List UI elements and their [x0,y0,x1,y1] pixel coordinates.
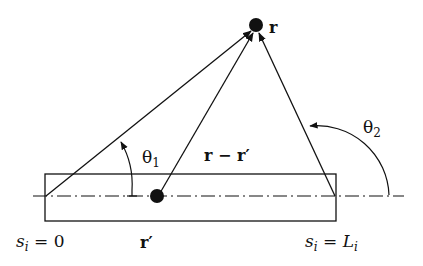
field-point-r [249,18,263,32]
label-r-minus-rprime: r − r′ [204,146,250,165]
label-theta2: θ2 [363,117,381,140]
vector-from-start [46,31,251,196]
vector-r-minus-rprime [160,33,253,193]
segment-field-diagram: r r − r′ r′ θ1 θ2 si = 0 si = Li [0,0,423,266]
vector-from-end [259,33,335,196]
theta1-arc [121,142,132,196]
label-theta1: θ1 [142,147,160,170]
label-r: r [269,18,278,37]
label-start-s0: si = 0 [16,231,64,254]
label-end-sL: si = Li [305,231,358,254]
segment-rectangle [45,174,336,221]
source-point-rprime [150,189,164,203]
label-rprime: r′ [140,233,153,252]
